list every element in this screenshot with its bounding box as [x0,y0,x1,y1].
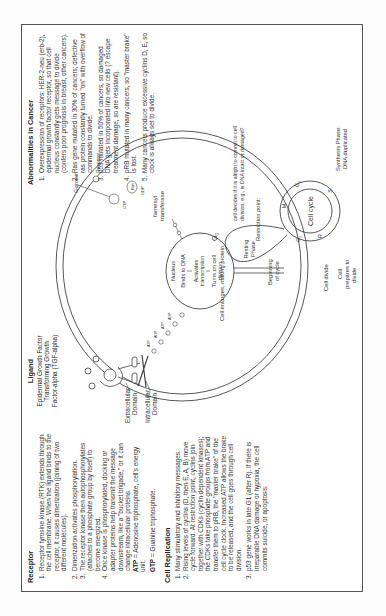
domain-labels: Extracellular Domain Intracellular Domai… [124,387,158,423]
gdp-small-label: GDP [140,186,145,195]
cancer-heading: Abnormalities in Cancer [27,33,35,185]
cell-cycle-annotations: Cell enlarges, making protein Beginning … [219,126,357,321]
beginning-label-1: Beginning [267,259,273,285]
phase-g1: G1 [295,236,303,242]
rotated-page: Receptor Receptor tyrosine kinase (RTK) … [0,0,386,616]
phase-g2: G2 [294,181,302,187]
adp-label-1: ADP [154,330,158,338]
cell-cycle-label: Cell cycle [307,196,315,226]
extracellular-label-2: Domain [131,393,138,415]
prepares-label-2: prepares to [344,260,350,289]
prepares-label-1: Cell [337,269,343,279]
synthesis-label-1: Synthesis Phase: [335,126,341,171]
cancer-item-2: Ras gene mutated in 30% of cancers; defe… [71,33,94,174]
intracellular-label-2: Domain [151,393,158,415]
binds-dna-label: Binds to DNA [180,254,186,288]
phase-r: R [317,234,323,238]
extracellular-label-1: Extracellular [124,387,131,423]
cancer-item-5: Many cancers produce excessive cyclins D… [141,33,156,174]
atp-adp-chain: ATP ADP ATP ADP [147,312,184,353]
receptor-tyrosine-kinase [85,355,148,389]
gtp-small-label: GTP [122,200,127,209]
cancer-list: Overexpression of receptors: HER-2-neu (… [38,33,156,185]
farnesyl-label-2: transferase [159,190,165,221]
cancer-item-3: p53 mutated in 50% of cancers, so damage… [97,33,120,174]
adp-label-2: ADP [168,312,172,320]
atp-label-1: ATP [147,340,151,347]
activates-label-2: transcription [199,256,205,286]
intracellular-label-1: Intracellular [144,389,151,423]
diagram-frame: Receptor Receptor tyrosine kinase (RTK) … [21,24,363,592]
resting-label-1: Resting [243,240,249,259]
cancer-item-1: Overexpression of receptors: HER-2-neu (… [38,33,68,174]
restriction-label-2: cell decides if it is alright to commit … [232,126,238,221]
restriction-label-1: Restriction point: [255,197,261,241]
synthesis-label-2: DNA duplicated [342,129,348,169]
cell-cycle-wheel: Cell cycle G1 R S G2 M [280,181,340,242]
resting-label-2: Phase [250,241,256,257]
cell-divide-label: Cell divide [323,264,329,291]
farnesyl-label-1: farnesyl [152,196,158,217]
atp-label-2: ATP [161,322,165,329]
cancer-column: Abnormalities in Cancer Overexpression o… [27,33,159,185]
phase-s: S [327,189,333,193]
cancer-item-4: pRB mutated in many cancers, so "master … [123,33,138,174]
prepares-label-3: divide [351,268,357,283]
restriction-label-3: division, e.g., is DNA intact or damaged… [239,127,245,221]
nucleus-label: Nucleus [170,261,176,281]
phase-m: M [281,203,287,208]
cell-enlarges-label: Cell enlarges, making protein [219,246,225,321]
beginning-label-2: of cycle [274,261,280,281]
